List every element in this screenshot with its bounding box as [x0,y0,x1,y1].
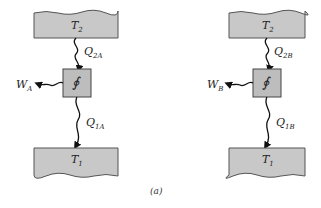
engine-a-cycle-icon: ∮ [72,75,79,89]
hot-reservoir-b-label: T2 [262,20,274,34]
cold-reservoir-a-label: T1 [71,154,83,168]
work-a-label: WA [16,79,32,93]
work-b-label: WB [207,79,223,93]
heat-out-arrow-b [266,97,270,146]
figure-caption: (a) [150,186,162,196]
work-arrow-b [228,82,253,85]
cold-reservoir-b-label: T1 [262,154,274,168]
engine-b-cycle-icon: ∮ [262,75,269,89]
heat-in-b-label: Q2B [274,46,293,60]
heat-out-arrow-a [76,97,80,146]
heat-in-arrow-a [74,38,79,69]
heat-in-a-label: Q2A [84,46,103,60]
heat-out-b-label: Q1B [276,117,295,131]
hot-reservoir-a-label: T2 [71,20,83,34]
heat-in-arrow-b [265,38,269,69]
heat-out-a-label: Q1A [86,117,105,131]
work-arrow-a [38,82,63,85]
